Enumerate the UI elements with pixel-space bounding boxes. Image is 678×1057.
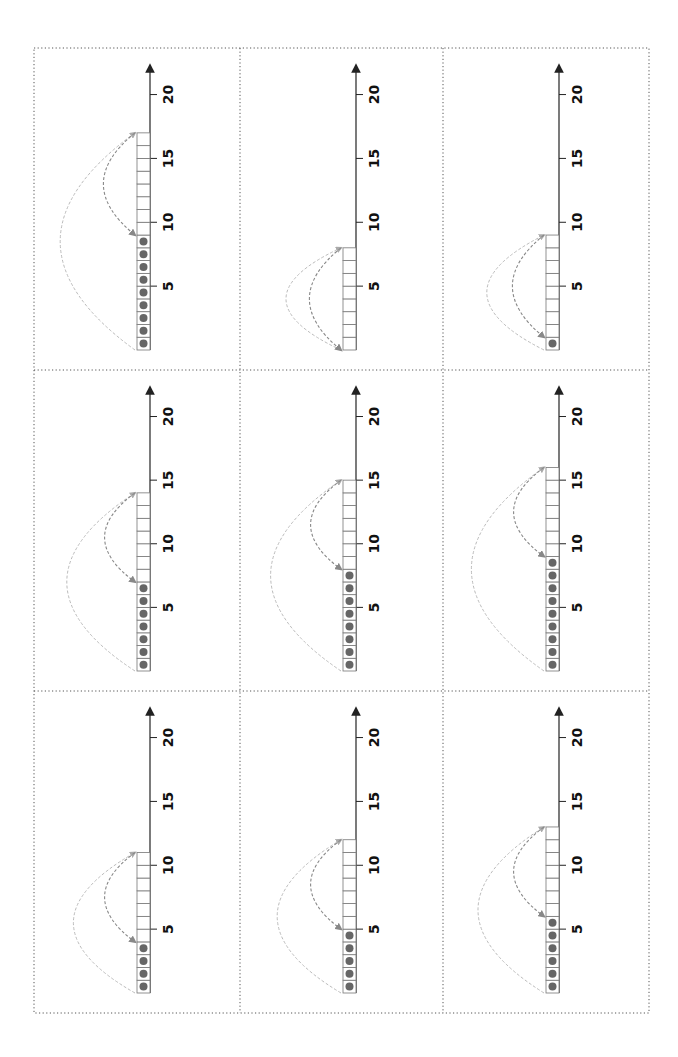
tick-label: 5 xyxy=(366,281,382,291)
counter-box xyxy=(343,878,356,891)
counter-dot xyxy=(346,622,354,630)
tick-label: 15 xyxy=(569,470,585,489)
tick-label: 15 xyxy=(160,149,176,168)
tick-label: 15 xyxy=(366,792,382,811)
counter-dot xyxy=(346,661,354,669)
tick-label: 20 xyxy=(366,728,382,748)
jump-arc-total xyxy=(73,853,135,993)
counter-box xyxy=(546,480,559,493)
counter-box xyxy=(343,312,356,325)
jump-arc-difference xyxy=(311,480,341,569)
tick-label: 20 xyxy=(366,407,382,427)
counter-box xyxy=(137,556,150,569)
jump-arc-difference xyxy=(512,235,544,337)
tick-label: 5 xyxy=(366,603,382,613)
number-line-panel: 5101520 xyxy=(67,390,176,671)
tick-label: 10 xyxy=(569,534,585,554)
counter-box xyxy=(343,518,356,531)
counter-box xyxy=(137,197,150,210)
jump-arc-difference xyxy=(105,853,135,942)
counter-box xyxy=(137,853,150,866)
counter-box xyxy=(137,210,150,223)
counter-dot xyxy=(140,276,148,284)
counter-dot xyxy=(549,597,557,605)
counter-dot xyxy=(346,983,354,991)
counter-box xyxy=(546,299,559,312)
counter-dot xyxy=(549,584,557,592)
counter-dot xyxy=(140,957,148,965)
counter-box xyxy=(546,518,559,531)
counter-box xyxy=(137,865,150,878)
counter-box xyxy=(343,480,356,493)
counter-box xyxy=(546,286,559,299)
counter-dot xyxy=(140,250,148,258)
number-line-panel: 5101520 xyxy=(286,68,382,350)
counter-dot xyxy=(549,622,557,630)
jump-arc-total xyxy=(487,235,544,350)
counter-box xyxy=(546,904,559,917)
counter-dot xyxy=(549,919,557,927)
counter-dot xyxy=(140,610,148,618)
tick-label: 10 xyxy=(366,534,382,554)
tick-label: 5 xyxy=(160,281,176,291)
counter-box xyxy=(343,337,356,350)
number-line-panel: 5101520 xyxy=(277,711,382,993)
counter-dot xyxy=(140,622,148,630)
tick-label: 15 xyxy=(160,470,176,489)
tick-label: 20 xyxy=(569,85,585,105)
tick-label: 5 xyxy=(366,924,382,934)
counter-dot xyxy=(549,957,557,965)
jump-arc-total xyxy=(277,840,341,993)
counter-dot xyxy=(140,661,148,669)
tick-label: 10 xyxy=(160,534,176,554)
counter-dot xyxy=(549,661,557,669)
tick-label: 10 xyxy=(160,855,176,875)
counter-dot xyxy=(140,970,148,978)
tick-label: 20 xyxy=(366,85,382,105)
counter-box xyxy=(137,133,150,146)
tick-label: 5 xyxy=(569,281,585,291)
tick-label: 5 xyxy=(160,603,176,613)
tick-label: 10 xyxy=(366,212,382,232)
counter-dot xyxy=(140,237,148,245)
counter-box xyxy=(343,261,356,274)
tick-label: 10 xyxy=(366,855,382,875)
tick-label: 15 xyxy=(569,149,585,168)
counter-box xyxy=(343,865,356,878)
number-line-panel: 5101520 xyxy=(73,711,176,993)
counter-box xyxy=(137,904,150,917)
counter-dot xyxy=(140,635,148,643)
jump-arc-total xyxy=(271,480,341,671)
tick-label: 15 xyxy=(569,792,585,811)
counter-box xyxy=(343,840,356,853)
tick-label: 20 xyxy=(569,407,585,427)
counter-dot xyxy=(549,610,557,618)
counter-box xyxy=(137,184,150,197)
counter-box xyxy=(546,544,559,557)
number-line-panel: 5101520 xyxy=(487,68,585,350)
counter-box xyxy=(137,493,150,506)
counter-box xyxy=(137,222,150,235)
counter-dot xyxy=(346,944,354,952)
counter-dot xyxy=(549,572,557,580)
tick-label: 10 xyxy=(160,212,176,232)
counter-box xyxy=(546,312,559,325)
counter-box xyxy=(343,506,356,519)
jump-arc-difference xyxy=(311,840,341,929)
counter-dot xyxy=(346,572,354,580)
counter-box xyxy=(546,248,559,261)
tick-label: 15 xyxy=(160,792,176,811)
jump-arc-difference xyxy=(105,493,135,582)
counter-dot xyxy=(549,944,557,952)
jump-arc-total xyxy=(286,248,341,350)
counter-box xyxy=(546,827,559,840)
counter-box xyxy=(137,891,150,904)
counter-box xyxy=(137,506,150,519)
counter-box xyxy=(343,904,356,917)
number-line-panel: 5101520 xyxy=(471,390,585,671)
tick-label: 20 xyxy=(160,728,176,748)
counter-dot xyxy=(549,340,557,348)
counter-dot xyxy=(346,932,354,940)
jump-arc-total xyxy=(67,493,135,671)
counter-box xyxy=(343,544,356,557)
